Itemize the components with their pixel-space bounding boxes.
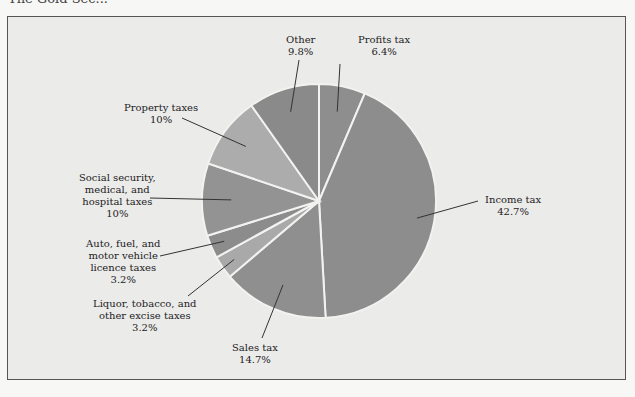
label-profits-tax: Profits tax 6.4%	[358, 34, 410, 58]
label-liquor-value: 3.2%	[93, 322, 197, 334]
label-social-line3: hospital taxes	[79, 196, 156, 208]
label-property-name: Property taxes	[124, 102, 198, 114]
label-liquor-line1: Liquor, tobacco, and	[93, 298, 197, 310]
label-social-security: Social security, medical, and hospital t…	[79, 172, 156, 220]
label-other-name: Other	[286, 34, 315, 46]
label-income-name: Income tax	[485, 194, 541, 206]
label-auto-line1: Auto, fuel, and	[86, 238, 160, 250]
label-sales-tax: Sales tax 14.7%	[232, 342, 278, 366]
label-auto-fuel: Auto, fuel, and motor vehicle licence ta…	[86, 238, 160, 286]
label-sales-name: Sales tax	[232, 342, 278, 354]
leader-line	[188, 259, 234, 296]
label-profits-value: 6.4%	[358, 46, 410, 58]
label-income-tax: Income tax 42.7%	[485, 194, 541, 218]
label-other-value: 9.8%	[286, 46, 315, 58]
label-property-taxes: Property taxes 10%	[124, 102, 198, 126]
label-social-value: 10%	[79, 208, 156, 220]
label-social-line1: Social security,	[79, 172, 156, 184]
label-liquor-tobacco: Liquor, tobacco, and other excise taxes …	[93, 298, 197, 334]
label-income-value: 42.7%	[485, 206, 541, 218]
label-auto-line2: motor vehicle	[86, 250, 160, 262]
label-social-line2: medical, and	[79, 184, 156, 196]
label-auto-line3: licence taxes	[86, 262, 160, 274]
label-sales-value: 14.7%	[232, 354, 278, 366]
label-auto-value: 3.2%	[86, 274, 160, 286]
label-liquor-line2: other excise taxes	[93, 310, 197, 322]
label-property-value: 10%	[124, 114, 198, 126]
label-profits-name: Profits tax	[358, 34, 410, 46]
label-other: Other 9.8%	[286, 34, 315, 58]
